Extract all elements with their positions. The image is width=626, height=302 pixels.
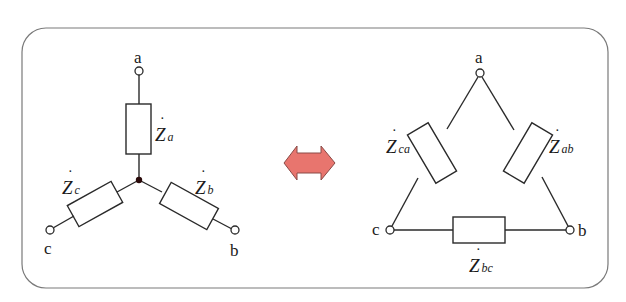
- delta-label-b: b: [578, 221, 587, 240]
- delta-terminal-a: [476, 69, 484, 77]
- delta-terminal-c: [386, 226, 394, 234]
- star-terminal-a: [135, 67, 143, 75]
- star-terminal-c: [46, 226, 54, 234]
- star-label-a: a: [134, 48, 142, 67]
- star-delta-diagram: a c b · Za · Zc · Zb: [0, 0, 626, 302]
- star-terminal-b: [231, 226, 239, 234]
- delta-terminal-b: [566, 226, 574, 234]
- star-label-b: b: [230, 241, 239, 260]
- star-label-c: c: [44, 239, 52, 258]
- star-center-node: [136, 177, 142, 183]
- delta-label-a: a: [475, 48, 483, 67]
- delta-resistor-zbc: [453, 217, 505, 243]
- delta-label-c: c: [372, 220, 380, 239]
- star-resistor-za: [126, 104, 151, 154]
